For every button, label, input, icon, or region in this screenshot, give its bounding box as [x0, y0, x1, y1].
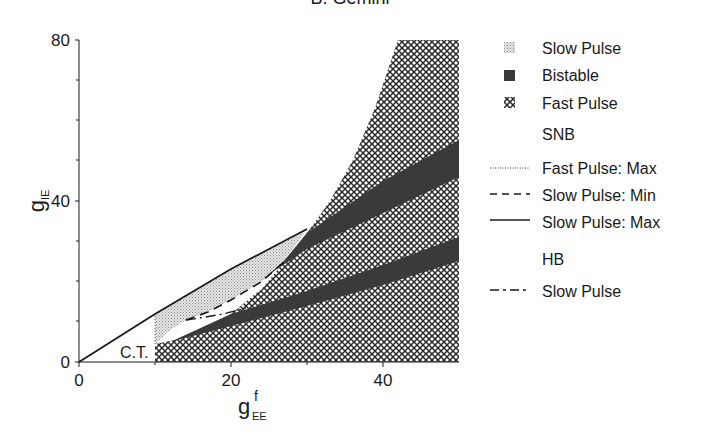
- legend: Slow Pulse Bistable Fast Pulse SNB Fast …: [490, 40, 660, 300]
- y-tick-40: 40: [51, 192, 70, 211]
- svg-text:g: g: [238, 394, 250, 419]
- chart-title: B. Gemini: [310, 0, 389, 8]
- x-axis-label: g f EE: [238, 388, 267, 422]
- x-tick-20: 20: [222, 371, 241, 390]
- legend-label-snb-slow-max: Slow Pulse: Max: [542, 214, 660, 231]
- legend-label-snb-slow-min: Slow Pulse: Min: [542, 187, 656, 204]
- phase-diagram-chart: B. Gemini 80 40 0 gIE: [0, 0, 701, 434]
- y-axis-label: gIE: [24, 190, 51, 213]
- legend-label-slow-pulse: Slow Pulse: [542, 40, 621, 57]
- y-axis: 80 40 0 gIE: [24, 31, 79, 372]
- legend-label-snb-fast-max: Fast Pulse: Max: [542, 160, 657, 177]
- svg-text:gIE: gIE: [24, 190, 51, 213]
- legend-heading-hb: HB: [542, 251, 564, 268]
- ct-annotation: C.T.: [120, 344, 148, 361]
- legend-label-hb-slow: Slow Pulse: [542, 283, 621, 300]
- plot-regions: [155, 40, 459, 362]
- legend-swatch-slow-pulse: [504, 42, 515, 53]
- legend-swatch-bistable: [504, 70, 515, 81]
- x-tick-40: 40: [374, 371, 393, 390]
- x-axis: 0 20 40 g f EE: [74, 362, 459, 422]
- legend-heading-snb: SNB: [542, 126, 575, 143]
- y-tick-80: 80: [51, 31, 70, 50]
- y-tick-0: 0: [61, 353, 70, 372]
- svg-text:EE: EE: [252, 410, 267, 422]
- legend-label-fast-pulse: Fast Pulse: [542, 95, 618, 112]
- x-tick-0: 0: [74, 371, 83, 390]
- legend-swatch-fast-pulse: [504, 97, 515, 108]
- svg-text:f: f: [254, 388, 258, 404]
- legend-label-bistable: Bistable: [542, 67, 599, 84]
